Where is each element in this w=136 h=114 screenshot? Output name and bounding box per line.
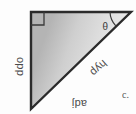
adjacent-side-label: adj [72,98,87,109]
opposite-side-label: opp [15,57,26,76]
caption-label: c. [122,89,129,100]
triangle-body [31,12,131,109]
right-triangle-figure: hyp opp adj θ c. [0,0,136,114]
theta-angle-label: θ [102,20,108,30]
